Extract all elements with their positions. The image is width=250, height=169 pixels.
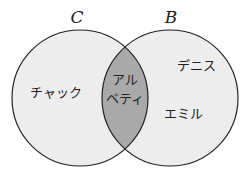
member-chuck: チャック (30, 85, 82, 100)
member-betty: ベティ (106, 91, 144, 106)
member-emil: エミル (164, 106, 203, 121)
set-label-c: C (70, 7, 83, 27)
set-label-b: B (164, 7, 178, 27)
member-al: アル (112, 72, 138, 87)
venn-diagram: C B チャック アル ベティ デニス エミル (0, 0, 250, 169)
member-dennis: デニス (177, 58, 216, 73)
